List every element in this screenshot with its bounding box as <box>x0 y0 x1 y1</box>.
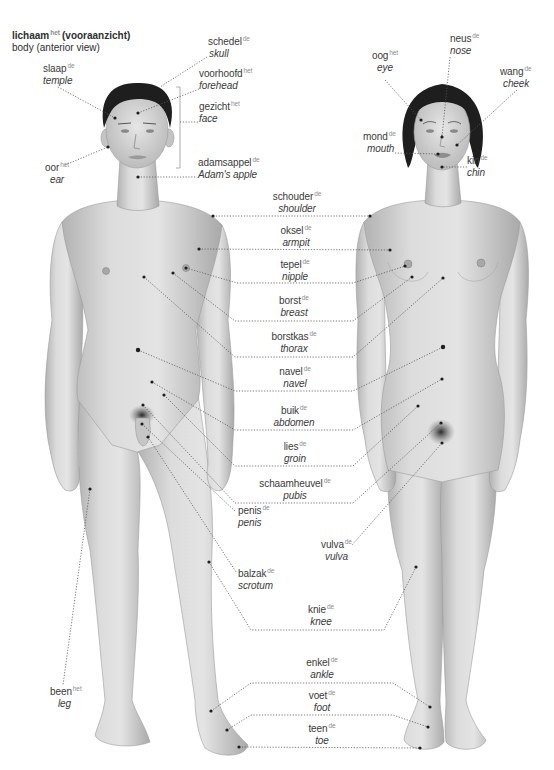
article: de <box>304 365 311 372</box>
english-term: scrotum <box>238 580 274 592</box>
dutch-term: kin <box>467 155 479 166</box>
english-term: cheek <box>500 78 532 90</box>
english-term: vulva <box>321 551 352 563</box>
english-term: knee <box>308 616 334 628</box>
label-penis: penisde penis <box>238 505 269 529</box>
label-skull: schedelde skull <box>208 36 250 60</box>
article: de <box>252 156 259 163</box>
english-term: mouth <box>363 143 396 155</box>
english-term: groin <box>284 453 307 465</box>
label-pubis: schaamheuvelde pubis <box>259 478 330 502</box>
leader-ear <box>65 147 108 165</box>
article: de <box>262 504 269 511</box>
title-suffix: (vooraanzicht) <box>62 30 130 41</box>
label-ankle: enkelde ankle <box>306 657 337 681</box>
female-nipple-right <box>477 259 485 267</box>
english-term: thorax <box>271 343 316 355</box>
female-figure <box>356 84 529 749</box>
article: de <box>302 294 309 301</box>
english-term: shoulder <box>273 203 321 215</box>
article: de <box>309 330 316 337</box>
label-mouth: mondde mouth <box>363 131 396 155</box>
dutch-term: enkel <box>306 657 329 668</box>
english-term: armpit <box>281 237 312 249</box>
dutch-term: schedel <box>208 36 242 47</box>
label-cheek: wangde cheek <box>500 66 532 90</box>
english-term: nose <box>450 45 479 57</box>
article: het <box>389 49 398 56</box>
label-armpit: okselde armpit <box>281 225 312 249</box>
article: de <box>472 32 479 39</box>
dutch-term: oor <box>45 162 59 173</box>
dutch-term: wang <box>500 66 524 77</box>
label-toe: teende toe <box>308 723 335 747</box>
english-term: forehead <box>199 80 252 92</box>
label-breast: borstde breast <box>279 295 309 319</box>
label-groin: liesde groin <box>284 441 307 465</box>
english-term: nipple <box>280 271 309 283</box>
label-nose: neusde nose <box>450 33 479 57</box>
anatomy-illustration <box>0 0 554 770</box>
english-term: pubis <box>259 490 330 502</box>
dutch-term: navel <box>279 366 302 377</box>
label-scrotum: balzakde scrotum <box>238 568 274 592</box>
article: de <box>303 258 310 265</box>
article: de <box>300 404 307 411</box>
label-abdomen: buikde abdomen <box>274 405 315 429</box>
dutch-term: schaamheuvel <box>259 478 322 489</box>
article: de <box>328 689 335 696</box>
female-right-leg <box>441 455 497 749</box>
english-term: face <box>199 113 240 125</box>
english-term: temple <box>43 75 74 87</box>
english-term: chin <box>467 167 488 179</box>
english-term: eye <box>372 62 398 74</box>
title-article: het <box>50 29 60 36</box>
article: het <box>231 100 240 107</box>
dutch-term: balzak <box>238 568 266 579</box>
article: de <box>304 224 311 231</box>
english-term: breast <box>279 307 309 319</box>
article: de <box>314 190 321 197</box>
dutch-term: slaap <box>43 63 66 74</box>
male-nipple-left <box>103 268 110 275</box>
article: het <box>73 685 82 692</box>
article: de <box>327 603 334 610</box>
dutch-term: adamsappel <box>198 157 251 168</box>
label-chin: kinde chin <box>467 155 488 179</box>
dutch-term: schouder <box>273 191 313 202</box>
female-left-leg <box>388 455 446 749</box>
label-face: gezichthet face <box>199 101 240 125</box>
label-eye: ooghet eye <box>372 50 398 74</box>
article: de <box>345 538 352 545</box>
english-term: skull <box>208 48 250 60</box>
male-figure <box>45 83 248 755</box>
article: de <box>243 35 250 42</box>
label-shoulder: schouderde shoulder <box>273 191 321 215</box>
label-ear: oorhet ear <box>45 162 69 186</box>
dutch-term: buik <box>281 405 299 416</box>
article: het <box>60 161 69 168</box>
english-term: toe <box>308 735 335 747</box>
dutch-term: borstkas <box>271 331 308 342</box>
label-forehead: voorhoofdhet forehead <box>199 68 252 92</box>
english-term: Adam's apple <box>198 169 260 181</box>
label-navel: navelde navel <box>279 366 310 390</box>
article: de <box>324 477 331 484</box>
dutch-term: knie <box>308 604 326 615</box>
label-foot: voetde foot <box>309 690 336 714</box>
dutch-term: vulva <box>321 539 344 550</box>
dutch-term: borst <box>279 295 301 306</box>
diagram-title: lichaamhet(vooraanzicht) body (anterior … <box>12 27 130 54</box>
article: de <box>329 722 336 729</box>
dutch-term: gezicht <box>199 101 230 112</box>
article: de <box>389 130 396 137</box>
article: de <box>67 62 74 69</box>
label-thorax: borstkasde thorax <box>271 331 316 355</box>
dutch-term: oksel <box>281 225 304 236</box>
article: de <box>267 567 274 574</box>
english-term: leg <box>50 698 82 710</box>
dutch-term: penis <box>238 505 261 516</box>
title-subtitle: body (anterior view) <box>12 42 130 54</box>
article: de <box>525 65 532 72</box>
dutch-term: been <box>50 686 72 697</box>
